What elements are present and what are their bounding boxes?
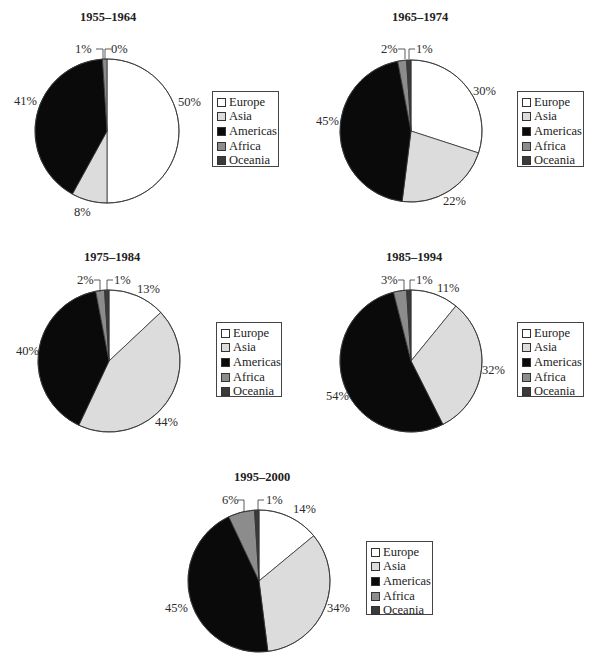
legend-item-africa: Africa <box>371 589 428 604</box>
legend-label: Africa <box>383 589 415 604</box>
legend-label: Americas <box>383 574 431 589</box>
pie-chart-grid: 1955–1964 50% 8% 41% 1% 0% EuropeAsiaAme… <box>0 0 598 670</box>
legend-swatch <box>371 606 380 615</box>
legend-swatch <box>371 562 380 571</box>
legend-swatch <box>371 577 380 586</box>
legend-label: Europe <box>383 545 419 560</box>
leader-lines <box>0 0 598 670</box>
legend-label: Oceania <box>383 603 424 618</box>
legend-label: Asia <box>383 559 406 574</box>
legend-item-europe: Europe <box>371 545 428 560</box>
legend-swatch <box>371 548 380 557</box>
legend-swatch <box>371 592 380 601</box>
legend-item-oceania: Oceania <box>371 603 428 618</box>
legend: EuropeAsiaAmericasAfricaOceania <box>366 541 433 615</box>
legend-item-asia: Asia <box>371 560 428 575</box>
legend-item-americas: Americas <box>371 574 428 589</box>
